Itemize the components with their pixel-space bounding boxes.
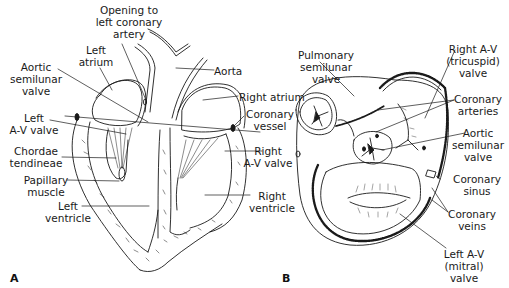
- label-left-ventricle: Left ventricle: [44, 200, 92, 224]
- label-coronary-vessel: Coronary vessel: [244, 108, 296, 132]
- panel-label-b: B: [282, 272, 290, 285]
- panel-b-valve-view: [296, 73, 448, 245]
- label-aortic-semilunar-valve-a: Aortic semilunar valve: [6, 61, 66, 97]
- label-chordae-tendineae: Chordae tendineae: [8, 145, 64, 169]
- label-right-atrium: Right atrium: [239, 91, 305, 103]
- label-aortic-semilunar-valve-b: Aortic semilunar valve: [448, 127, 508, 163]
- label-opening-left-coronary-artery: Opening to left coronary artery: [88, 4, 170, 40]
- label-coronary-veins: Coronary veins: [444, 208, 500, 232]
- label-left-atrium: Left atrium: [76, 44, 116, 68]
- label-pulmonary-semilunar-valve: Pulmonary semilunar valve: [298, 49, 354, 85]
- label-left-av-mitral-valve: Left A-V (mitral) valve: [436, 248, 492, 284]
- label-right-av-tricuspid-valve: Right A-V (tricuspid) valve: [442, 43, 504, 79]
- label-right-av-valve: Right A-V valve: [240, 145, 296, 169]
- label-left-av-valve: Left A-V valve: [6, 112, 62, 136]
- label-papillary-muscle: Papillary muscle: [20, 174, 72, 198]
- panel-label-a: A: [10, 272, 19, 285]
- label-aorta: Aorta: [214, 65, 242, 77]
- label-coronary-arteries: Coronary arteries: [450, 93, 506, 117]
- label-coronary-sinus: Coronary sinus: [449, 173, 505, 197]
- label-right-ventricle: Right ventricle: [246, 190, 298, 214]
